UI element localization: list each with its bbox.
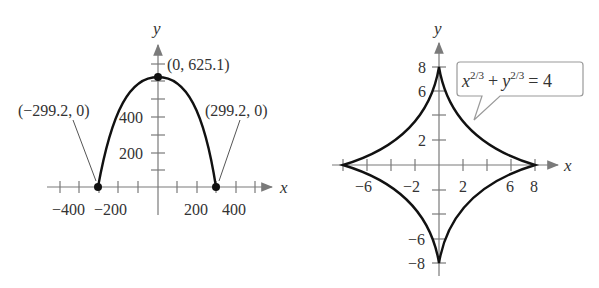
y-axis-label: y [151, 19, 161, 38]
point-right [212, 183, 220, 191]
eq-x: x [461, 71, 470, 91]
eq-exp1: 2/3 [470, 69, 485, 81]
annotation-right: (299.2, 0) [205, 102, 268, 120]
y-tick-label: 8 [418, 59, 426, 76]
leader-left [73, 120, 96, 181]
x-tick-label: −6 [355, 178, 372, 195]
eq-exp2: 2/3 [510, 69, 525, 81]
point-top [154, 73, 162, 81]
x-tick-label: 6 [506, 178, 514, 195]
equation-callout: x2/3+y2/3= 4 [457, 62, 583, 120]
y-axis-label: y [432, 19, 442, 38]
x-axis-label: x [279, 178, 288, 197]
y-tick-label: 400 [119, 109, 143, 126]
x-tick-label: 2 [459, 178, 467, 195]
eq-rhs: = 4 [528, 71, 552, 91]
y-tick-label: −6 [408, 231, 425, 248]
x-tick-label: 8 [530, 178, 538, 195]
parabola-chart: y x −400 −200 200 400 400 200 (0, 625.1)… [18, 19, 288, 218]
y-tick-label: −8 [408, 255, 425, 272]
x-tick-label: −2 [403, 178, 420, 195]
astroid-chart: x2/3+y2/3= 4 y x −6 −2 2 6 8 8 6 2 −6 −8 [332, 19, 583, 276]
x-tick-label: 200 [184, 201, 208, 218]
x-tick-label: −200 [94, 201, 127, 218]
eq-y: y [500, 71, 510, 91]
figure: y x −400 −200 200 400 400 200 (0, 625.1)… [0, 0, 599, 288]
x-axis-label: x [563, 156, 572, 175]
x-tick-label: −400 [52, 201, 85, 218]
point-left [94, 183, 102, 191]
annotation-left: (−299.2, 0) [18, 102, 90, 120]
y-tick-label: 2 [418, 132, 426, 149]
leader-right [219, 120, 240, 181]
x-tick-label: 400 [222, 201, 246, 218]
y-tick-label: 6 [418, 83, 426, 100]
eq-plus: + [488, 71, 498, 91]
y-tick-label: 200 [119, 145, 143, 162]
annotation-top: (0, 625.1) [167, 56, 230, 74]
